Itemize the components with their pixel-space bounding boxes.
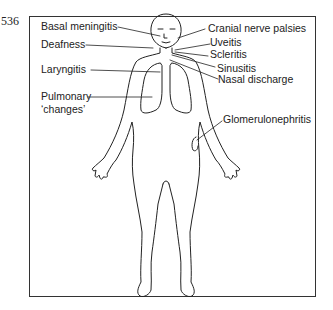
head-icon (151, 14, 181, 48)
lungs-icon (141, 63, 192, 113)
label-cranial-nerve-palsies: Cranial nerve palsies (208, 23, 306, 34)
label-uveitis: Uveitis (210, 37, 242, 48)
leader-lines (86, 27, 222, 140)
label-deafness: Deafness (41, 39, 85, 50)
label-pulmonary-changes: ‘changes’ (41, 104, 85, 115)
label-glomerulonephritis: Glomerulonephritis (223, 114, 311, 125)
kidney-icon (192, 137, 198, 151)
label-scleritis: Scleritis (210, 49, 247, 60)
label-basal-meningitis: Basal meningitis (41, 21, 117, 32)
body-icon (92, 48, 239, 297)
label-nasal-discharge: Nasal discharge (218, 74, 293, 85)
label-pulmonary: Pulmonary (41, 91, 91, 102)
label-laryngitis: Laryngitis (41, 64, 86, 75)
